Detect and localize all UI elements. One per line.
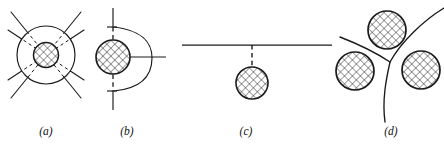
panel-d-label: (d) (384, 125, 398, 138)
panel-d-particle-left (336, 52, 374, 90)
figure-canvas: (a) (b) (0, 0, 444, 145)
panel-d-particle-top (368, 11, 406, 49)
panel-c-particle (236, 67, 268, 99)
panel-a-label: (a) (39, 125, 53, 138)
panel-c: (c) (182, 45, 332, 138)
panel-d-particle-right (402, 51, 440, 89)
panel-b: (b) (96, 8, 166, 138)
panel-d-branch-lower (384, 62, 390, 122)
panel-c-label: (c) (240, 125, 253, 138)
figure-container: (a) (b) (0, 0, 444, 145)
panel-b-particle (96, 40, 130, 74)
panel-a-particle (34, 43, 59, 68)
panel-b-label: (b) (120, 125, 134, 138)
panel-a: (a) (8, 12, 84, 138)
panel-d: (d) (336, 8, 444, 138)
